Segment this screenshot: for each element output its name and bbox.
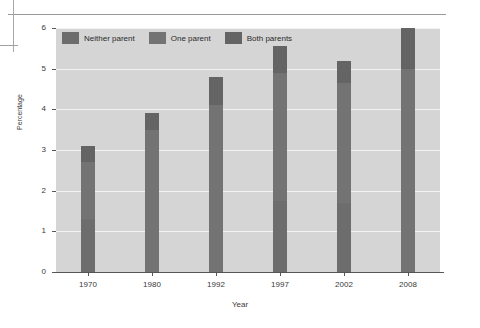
legend-label-one-parent: One parent bbox=[171, 34, 211, 43]
y-axis-tick-label: 1 bbox=[30, 227, 46, 235]
legend-item-neither-parent: Neither parent bbox=[62, 32, 135, 44]
y-axis-tick-label: 5 bbox=[30, 65, 46, 73]
x-axis-tick bbox=[216, 272, 217, 276]
gridline bbox=[56, 109, 440, 110]
x-axis-tick bbox=[88, 272, 89, 276]
legend-item-one-parent: One parent bbox=[149, 32, 211, 44]
x-axis-tick-label: 1980 bbox=[132, 280, 172, 289]
x-axis-tick-label: 1970 bbox=[68, 280, 108, 289]
bar-segment[interactable] bbox=[81, 219, 95, 272]
y-axis-tick bbox=[52, 28, 56, 29]
legend-label-neither-parent: Neither parent bbox=[84, 34, 135, 43]
y-axis-tick-label: 3 bbox=[30, 146, 46, 154]
y-axis-tick bbox=[52, 150, 56, 151]
y-axis-title: Percentage bbox=[16, 94, 23, 130]
x-axis-tick bbox=[408, 272, 409, 276]
y-axis-tick-label: 6 bbox=[30, 24, 46, 32]
bar-segment[interactable] bbox=[209, 77, 223, 105]
legend-item-both-parents: Both parents bbox=[225, 32, 292, 44]
plot-area: Neither parent One parent Both parents bbox=[56, 28, 440, 272]
y-axis-tick-label: 4 bbox=[30, 105, 46, 113]
bar-segment[interactable] bbox=[273, 46, 287, 72]
gridline bbox=[56, 150, 440, 151]
x-axis-tick-label: 2002 bbox=[324, 280, 364, 289]
x-axis-tick bbox=[280, 272, 281, 276]
bar-segment[interactable] bbox=[337, 203, 351, 272]
x-axis-tick-label: 2008 bbox=[388, 280, 428, 289]
y-axis-tick-label: 0 bbox=[30, 268, 46, 276]
legend-swatch-both-parents bbox=[225, 32, 242, 44]
bar-segment[interactable] bbox=[401, 28, 415, 69]
gridline bbox=[56, 191, 440, 192]
legend-swatch-neither-parent bbox=[62, 32, 79, 44]
y-axis-tick bbox=[52, 191, 56, 192]
bar-segment[interactable] bbox=[81, 162, 95, 219]
bar-segment[interactable] bbox=[401, 69, 415, 272]
bar-segment[interactable] bbox=[337, 83, 351, 203]
legend-label-both-parents: Both parents bbox=[247, 34, 292, 43]
x-axis-line bbox=[52, 272, 444, 273]
y-axis-tick bbox=[52, 69, 56, 70]
bar-segment[interactable] bbox=[81, 146, 95, 162]
y-axis-tick-label: 2 bbox=[30, 187, 46, 195]
bar-segment[interactable] bbox=[273, 201, 287, 272]
chart-figure: Neither parent One parent Both parents 0… bbox=[0, 0, 480, 328]
scan-artifact-top-rule bbox=[8, 14, 446, 15]
bar-segment[interactable] bbox=[337, 61, 351, 83]
x-axis-tick-label: 1997 bbox=[260, 280, 300, 289]
y-axis-tick bbox=[52, 272, 56, 273]
legend-swatch-one-parent bbox=[149, 32, 166, 44]
x-axis-title: Year bbox=[0, 300, 480, 309]
scan-artifact-left-tick bbox=[0, 45, 18, 46]
bar-segment[interactable] bbox=[209, 105, 223, 272]
chart-legend: Neither parent One parent Both parents bbox=[62, 32, 292, 44]
x-axis-tick bbox=[152, 272, 153, 276]
bar-segment[interactable] bbox=[273, 73, 287, 201]
bar-segment[interactable] bbox=[145, 113, 159, 129]
gridline bbox=[56, 231, 440, 232]
y-axis-tick bbox=[52, 231, 56, 232]
y-axis-tick bbox=[52, 109, 56, 110]
x-axis-tick-label: 1992 bbox=[196, 280, 236, 289]
gridline bbox=[56, 28, 440, 29]
bar-segment[interactable] bbox=[145, 130, 159, 272]
x-axis-tick bbox=[344, 272, 345, 276]
gridline bbox=[56, 69, 440, 70]
